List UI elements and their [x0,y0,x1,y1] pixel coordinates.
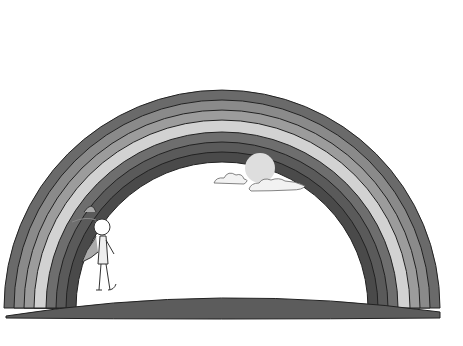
sun [245,153,275,183]
rainbow [4,90,440,308]
rainbow-illustration [0,0,463,346]
